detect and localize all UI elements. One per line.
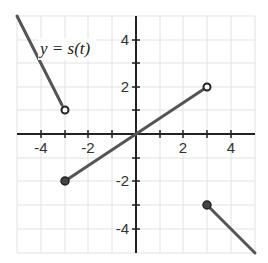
closed-point: [61, 177, 69, 185]
closed-point: [203, 201, 211, 209]
y-tick-label: -2: [116, 172, 129, 189]
open-point: [62, 107, 69, 114]
x-tick-label: 4: [227, 139, 235, 156]
open-point: [204, 84, 211, 91]
x-tick-label: 2: [179, 139, 187, 156]
y-tick-label: 2: [121, 78, 129, 95]
segment-1: [17, 16, 62, 105]
y-tick-label: 4: [121, 31, 129, 48]
x-tick-label: -2: [81, 139, 94, 156]
function-label: y = s(t): [38, 39, 91, 58]
y-tick-label: -4: [116, 220, 129, 237]
graph-canvas: -4 -2 2 4 4 2 -2 -4 y = s(t): [0, 0, 268, 263]
x-tick-label: -4: [34, 139, 47, 156]
